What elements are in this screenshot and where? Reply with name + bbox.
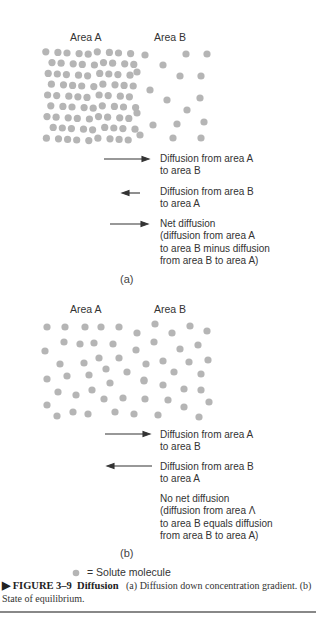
panel-a-letter: (a) bbox=[120, 273, 133, 285]
panel-b-area-b-label: Area B bbox=[154, 303, 186, 315]
molecule-key: = Solute molecule bbox=[87, 566, 171, 578]
panel-b-legend-3: No net diffusion (diffusion from area Λ … bbox=[160, 493, 273, 542]
panel-a-legend-3: Net diffusion (diffusion from area A to … bbox=[160, 218, 270, 267]
key-equals: = bbox=[87, 566, 93, 578]
molecule-key-icon bbox=[73, 570, 80, 577]
panel-b-legend-1: Diffusion from area A to area B bbox=[160, 429, 253, 454]
bottom-rule bbox=[0, 611, 316, 613]
caption-marker-icon: ▶ bbox=[2, 580, 10, 591]
panel-b-legend-2: Diffusion from area B to area A bbox=[160, 461, 254, 486]
panel-a-legend-1: Diffusion from area A to area B bbox=[160, 153, 253, 178]
key-text: Solute molecule bbox=[96, 566, 171, 578]
figure-caption: ▶ FIGURE 3–9 Diffusion (a) Diffusion dow… bbox=[2, 580, 314, 605]
caption-title: Diffusion bbox=[77, 580, 118, 591]
panel-b-letter: (b) bbox=[120, 547, 133, 559]
caption-figure-label: FIGURE 3–9 bbox=[13, 580, 72, 591]
panel-a-area-b-label: Area B bbox=[154, 31, 186, 43]
panel-a-area-a-label: Area A bbox=[70, 31, 102, 43]
panel-b-area-a-label: Area A bbox=[70, 303, 102, 315]
panel-a-legend-2: Diffusion from area B to area A bbox=[160, 186, 254, 211]
